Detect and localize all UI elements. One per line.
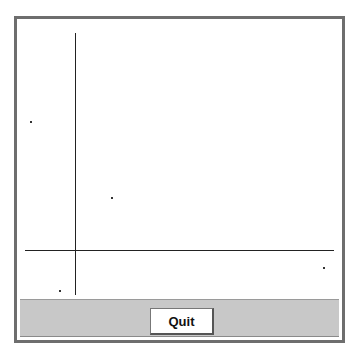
plot-canvas[interactable] (20, 22, 339, 299)
quit-button[interactable]: Quit (150, 308, 214, 335)
data-point (30, 121, 32, 123)
vertical-axis-line (75, 33, 76, 295)
data-point (59, 290, 61, 292)
button-panel: Quit (20, 299, 339, 337)
horizontal-axis-line (25, 250, 334, 251)
data-point (323, 267, 325, 269)
app-window: Quit (14, 16, 345, 343)
data-point (111, 197, 113, 199)
